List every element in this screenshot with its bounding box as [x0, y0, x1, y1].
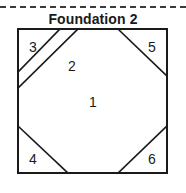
bottom-left-seam-line — [18, 126, 68, 173]
bottom-right-seam-line — [118, 126, 167, 173]
patch-label-6: 6 — [148, 151, 156, 167]
pattern-block-page: Foundation 2 1 2 3 4 5 6 — [0, 0, 186, 193]
patch-label-2: 2 — [68, 58, 76, 74]
foundation-block-diagram: 1 2 3 4 5 6 — [0, 0, 186, 193]
top-right-seam-line — [118, 29, 167, 76]
patch-label-5: 5 — [148, 39, 156, 55]
patch-label-1: 1 — [89, 94, 97, 110]
top-left-inner-seam-line — [18, 29, 60, 72]
patch-label-3: 3 — [29, 39, 37, 55]
patch-label-4: 4 — [29, 151, 37, 167]
